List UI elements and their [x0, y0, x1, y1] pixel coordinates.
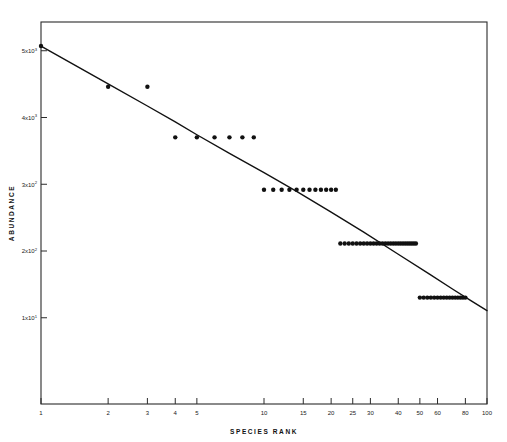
data-point-marker [418, 295, 422, 299]
data-point-marker [271, 188, 275, 192]
data-point-marker [463, 295, 467, 299]
x-tick-label: 50 [417, 410, 424, 416]
data-point-marker [334, 188, 338, 192]
x-tick-label: 40 [395, 410, 402, 416]
y-tick-exponent: 2 [35, 247, 38, 252]
x-tick-label: 4 [174, 410, 178, 416]
x-tick-label: 20 [328, 410, 335, 416]
data-point-marker [173, 135, 177, 139]
data-point-marker [338, 241, 342, 245]
x-tick-label: 60 [434, 410, 441, 416]
x-axis-title: SPECIES RANK [230, 428, 298, 435]
data-point-marker [287, 188, 291, 192]
data-point-marker [195, 135, 199, 139]
data-point-marker [145, 85, 149, 89]
x-tick-label: 25 [349, 410, 356, 416]
plot-border [41, 22, 487, 404]
data-point-marker [307, 188, 311, 192]
data-point-marker [414, 241, 418, 245]
y-tick-exponent: 1 [35, 314, 38, 319]
data-point-marker [240, 135, 244, 139]
x-tick-label: 5 [195, 410, 199, 416]
data-point-marker [347, 241, 351, 245]
data-point-marker [342, 241, 346, 245]
y-tick-label: 1x101 [22, 314, 38, 322]
y-tick-exponent: 2 [35, 180, 38, 185]
x-tick-label: 1 [39, 410, 43, 416]
x-tick-label: 10 [261, 410, 268, 416]
data-point-marker [252, 135, 256, 139]
y-tick-label: 2x102 [22, 247, 38, 255]
data-point-marker [351, 241, 355, 245]
data-point-marker [39, 44, 43, 48]
rank-abundance-figure: 12345101520253040506080100 5x1034x1033x1… [0, 0, 507, 442]
data-point-marker [106, 85, 110, 89]
rank-abundance-chart: 12345101520253040506080100 5x1034x1033x1… [0, 0, 507, 442]
x-tick-label: 3 [146, 410, 150, 416]
data-point-marker [279, 188, 283, 192]
data-point-marker [324, 188, 328, 192]
data-point-marker [212, 135, 216, 139]
data-point-marker [319, 188, 323, 192]
plot-frame [41, 22, 487, 404]
y-tick-exponent: 3 [35, 113, 38, 118]
y-axis-title: ABUNDANCE [8, 185, 15, 241]
data-point-marker [329, 188, 333, 192]
y-tick-exponent: 3 [35, 47, 38, 52]
data-point-marker [262, 188, 266, 192]
data-point-marker [313, 188, 317, 192]
data-point-marker [227, 135, 231, 139]
y-tick-label: 5x103 [22, 47, 38, 55]
x-tick-label: 100 [482, 410, 493, 416]
data-point-marker [301, 188, 305, 192]
y-tick-label: 3x102 [22, 180, 38, 188]
x-tick-label: 30 [367, 410, 374, 416]
x-tick-label: 15 [300, 410, 307, 416]
x-tick-label: 2 [106, 410, 110, 416]
data-point-marker [294, 188, 298, 192]
y-tick-label: 4x103 [22, 113, 38, 121]
x-tick-label: 80 [462, 410, 469, 416]
